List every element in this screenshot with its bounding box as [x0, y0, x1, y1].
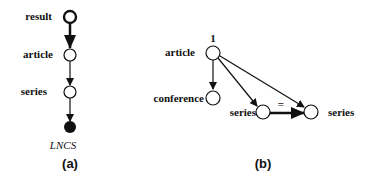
equality-label: =	[278, 98, 284, 110]
node-lncs	[64, 121, 76, 133]
diagram-a: result article series LNCS (a)	[21, 10, 78, 171]
label-conference: conference	[154, 92, 205, 104]
node-result	[64, 11, 76, 23]
label-article-b: article	[165, 46, 195, 58]
node-article-b	[206, 46, 220, 60]
label-series1: series	[230, 106, 257, 118]
label-article: article	[23, 48, 53, 60]
caption-b: (b)	[255, 156, 272, 171]
edge-article-series1	[218, 58, 257, 106]
edge-article-series2	[220, 56, 304, 107]
node-series1	[256, 105, 270, 119]
annotation-1: 1	[210, 32, 216, 44]
node-series2	[304, 105, 318, 119]
label-lncs: LNCS	[49, 139, 77, 151]
node-conference	[206, 91, 220, 105]
diagram-canvas: result article series LNCS (a) 1 article…	[0, 0, 374, 183]
label-series2: series	[328, 106, 355, 118]
caption-a: (a)	[62, 156, 78, 171]
node-article	[64, 49, 76, 61]
label-series: series	[21, 85, 48, 97]
node-series	[64, 86, 76, 98]
label-result: result	[25, 10, 52, 22]
diagram-b: 1 article conference series series = (b)	[154, 32, 355, 171]
